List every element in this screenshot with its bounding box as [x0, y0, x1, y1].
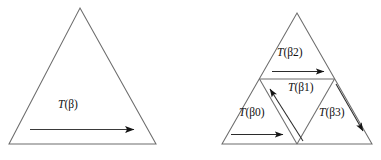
label-t-beta0: T(β0) — [239, 107, 265, 119]
label-t-beta2: T(β2) — [277, 47, 303, 59]
figure-container: T(β) T(β0) T(β1) T(β2) T(β3) — [0, 0, 381, 160]
label-t-beta1: T(β1) — [288, 82, 314, 94]
label-t-beta0-arg: (β0) — [245, 106, 264, 118]
label-t-beta3-arg: (β3) — [325, 106, 344, 118]
left-triangle-outline — [9, 8, 156, 144]
arrow-beta1 — [270, 89, 303, 141]
label-t-beta-arg: (β) — [64, 98, 78, 110]
diagram-canvas — [0, 0, 381, 160]
label-t-beta2-arg: (β2) — [283, 46, 302, 58]
label-t-beta1-arg: (β1) — [294, 81, 313, 93]
label-t-beta3: T(β3) — [319, 107, 345, 119]
label-t-beta: T(β) — [58, 99, 78, 111]
